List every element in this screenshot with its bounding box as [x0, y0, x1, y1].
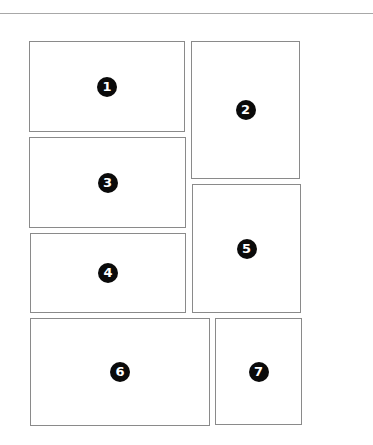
panel-number-badge: 4 [98, 263, 118, 283]
panel-number-badge: 3 [98, 173, 118, 193]
panel-6: 6 [30, 318, 210, 426]
panel-number-badge: 7 [249, 362, 269, 382]
panel-4: 4 [30, 233, 186, 313]
panel-5: 5 [192, 184, 301, 313]
panel-3: 3 [29, 137, 186, 228]
panel-7: 7 [215, 318, 302, 425]
panel-number-badge: 1 [97, 77, 117, 97]
panel-number-badge: 2 [236, 100, 256, 120]
panel-number-badge: 5 [237, 239, 257, 259]
panel-number-badge: 6 [110, 362, 130, 382]
top-divider-line [0, 13, 373, 14]
panel-1: 1 [29, 41, 185, 132]
panel-2: 2 [191, 41, 300, 179]
